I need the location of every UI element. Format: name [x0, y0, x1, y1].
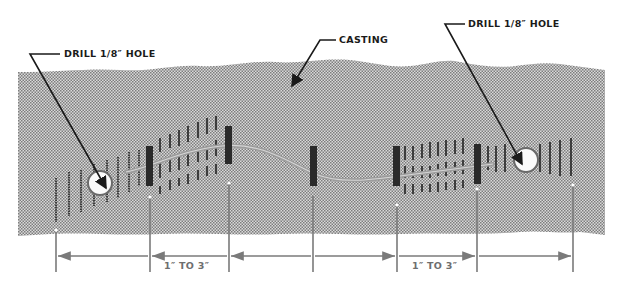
dimension-label-left-spacing: 1″ TO 3″	[164, 260, 209, 271]
label-casting: CASTING	[339, 34, 388, 45]
pin-3	[310, 146, 317, 186]
pin-1	[146, 146, 153, 186]
drill-hole-right	[514, 148, 538, 172]
label-drill-hole-right: DRILL 1/8″ HOLE	[468, 18, 559, 29]
diagram-canvas	[0, 0, 623, 288]
dimension-label-right-spacing: 1″ TO 3″	[412, 260, 457, 271]
pin-2	[225, 126, 232, 164]
pin-4	[393, 146, 400, 186]
pin-5	[474, 144, 481, 184]
drill-hole-left	[88, 171, 112, 195]
label-drill-hole-left: DRILL 1/8″ HOLE	[64, 48, 155, 59]
crack-stitching-diagram: DRILL 1/8″ HOLE CASTING DRILL 1/8″ HOLE …	[0, 0, 623, 288]
